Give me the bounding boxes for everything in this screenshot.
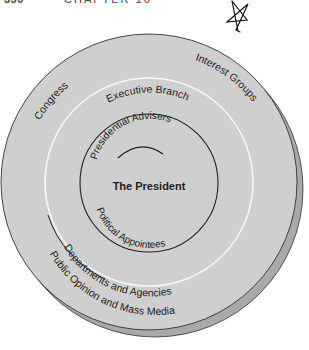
label-the-president: The President: [113, 180, 186, 192]
concentric-circles-diagram: Congress Interest Groups Public Opinion …: [0, 0, 309, 350]
star-icon: [227, 1, 248, 32]
